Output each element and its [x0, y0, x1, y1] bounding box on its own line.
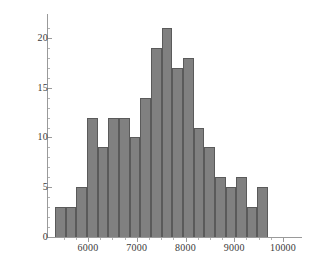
histogram-bar	[183, 58, 194, 237]
histogram-bar	[66, 207, 77, 237]
histogram-bar	[130, 137, 141, 237]
histogram-bar	[76, 187, 87, 237]
histogram-bars	[0, 0, 310, 267]
histogram-bar	[119, 118, 130, 237]
histogram-bar	[226, 187, 237, 237]
histogram-bar	[87, 118, 98, 237]
histogram-bar	[247, 207, 258, 237]
histogram-bar	[151, 48, 162, 237]
histogram-bar	[162, 28, 173, 237]
histogram-figure: 05101520 600070008000900010000	[0, 0, 310, 267]
histogram-bar	[108, 118, 119, 237]
plot-area: 05101520 600070008000900010000	[0, 0, 310, 267]
histogram-bar	[194, 128, 205, 238]
histogram-bar	[257, 187, 268, 237]
histogram-bar	[172, 68, 183, 237]
histogram-bar	[140, 98, 151, 237]
histogram-bar	[55, 207, 66, 237]
histogram-bar	[215, 177, 226, 237]
histogram-bar	[98, 147, 109, 237]
histogram-bar	[236, 177, 247, 237]
histogram-bar	[204, 147, 215, 237]
